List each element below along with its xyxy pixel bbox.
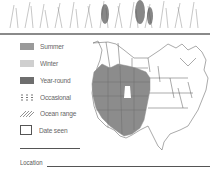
date-seen-line[interactable] <box>20 148 80 149</box>
legend-label: Date seen <box>39 126 67 135</box>
grass-illustration <box>0 0 221 30</box>
legend-item-date-seen: Date seen <box>20 124 74 136</box>
occasional-swatch-icon <box>20 94 34 101</box>
divider-rule <box>0 33 210 35</box>
legend-item-year-round: Year-round <box>20 74 77 86</box>
legend-label: Summer <box>40 42 64 51</box>
legend-label: Year-round <box>40 76 71 85</box>
summer-swatch <box>20 43 34 50</box>
year-round-swatch <box>20 77 34 84</box>
legend-item-summer: Summer <box>20 40 69 52</box>
date-seen-checkbox[interactable] <box>20 125 32 135</box>
ocean-range-swatch-icon <box>20 110 34 117</box>
winter-swatch <box>20 60 34 67</box>
range-gap-area <box>124 86 131 98</box>
location-line[interactable] <box>47 166 210 167</box>
legend-label: Occasional <box>40 93 71 102</box>
legend-label: Winter <box>40 59 58 68</box>
legend-item-occasional: Occasional <box>20 91 78 103</box>
range-map <box>88 38 213 153</box>
legend-item-ocean-range: Ocean range <box>20 107 84 119</box>
legend-item-winter: Winter <box>20 57 62 69</box>
legend-label: Ocean range <box>40 109 76 118</box>
location-label: Location <box>20 159 42 166</box>
